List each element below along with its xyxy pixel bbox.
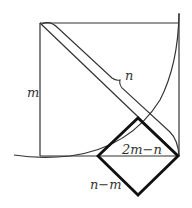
label-n: n bbox=[125, 69, 133, 82]
outer-square bbox=[40, 13, 179, 156]
label-m: m bbox=[27, 86, 39, 99]
diagram-canvas: m n 2m−n n−m bbox=[0, 0, 192, 208]
label-2m-minus-n: 2m−n bbox=[122, 143, 162, 156]
label-n-minus-m: n−m bbox=[90, 178, 122, 191]
